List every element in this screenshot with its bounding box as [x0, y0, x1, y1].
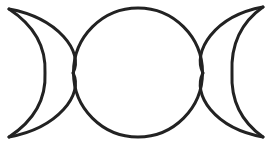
triple-moon-symbol — [0, 0, 278, 145]
triple-moon-icon — [0, 0, 278, 145]
background — [0, 0, 278, 145]
